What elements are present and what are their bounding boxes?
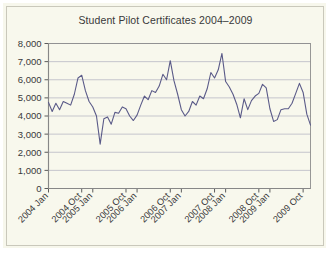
x-axis-labels: 2004 Jan2004 Oct2005 Jan2005 Oct2006 Jan… bbox=[16, 191, 305, 225]
data-series-line bbox=[49, 53, 311, 144]
y-tick-label: 3,000 bbox=[18, 129, 42, 140]
gridline-group bbox=[49, 44, 311, 171]
y-tick-label: 1,000 bbox=[18, 165, 42, 176]
y-tick-label: 7,000 bbox=[18, 56, 42, 67]
y-axis-labels: 01,0002,0003,0004,0005,0006,0007,0008,00… bbox=[18, 38, 42, 194]
y-tick-label: 4,000 bbox=[18, 110, 42, 121]
y-tick-label: 6,000 bbox=[18, 74, 42, 85]
chart-figure: Student Pilot Certificates 2004–2009 01,… bbox=[0, 0, 331, 253]
y-tick-label: 2,000 bbox=[18, 147, 42, 158]
x-tick-label: 2004 Jan bbox=[16, 191, 50, 225]
y-tick-label: 5,000 bbox=[18, 92, 42, 103]
x-tick-label: 2009 Oct bbox=[271, 191, 305, 225]
y-tick-group bbox=[45, 44, 49, 189]
y-tick-label: 8,000 bbox=[18, 38, 42, 49]
line-chart-plot: 01,0002,0003,0004,0005,0006,0007,0008,00… bbox=[0, 0, 331, 253]
